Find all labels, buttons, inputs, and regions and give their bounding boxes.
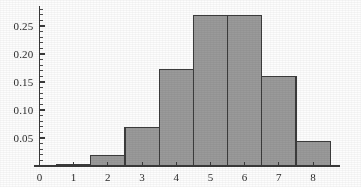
x-axis-tick-label: 5 <box>208 172 214 183</box>
plot-surface <box>0 0 361 187</box>
y-axis-tick-label: 0.10 <box>13 105 33 116</box>
x-axis-tick-label: 1 <box>71 172 77 183</box>
x-axis-tick-label: 0 <box>37 172 43 183</box>
x-axis-tick-label: 4 <box>173 172 179 183</box>
y-axis-tick-label: 0.05 <box>13 133 33 144</box>
histogram-bar <box>125 128 159 166</box>
x-axis-tick-label: 3 <box>139 172 145 183</box>
y-axis-tick-label: 0.15 <box>13 77 33 88</box>
x-axis-tick-label: 2 <box>105 172 111 183</box>
x-axis-tick-label: 8 <box>310 172 316 183</box>
x-axis-tick-label: 7 <box>276 172 282 183</box>
histogram-bar <box>228 16 262 166</box>
y-axis-tick-label: 0.25 <box>13 21 33 32</box>
y-axis-tick-label: 0.20 <box>13 49 33 60</box>
histogram-bar <box>159 70 193 166</box>
histogram-bar <box>262 76 296 166</box>
bars-group <box>57 16 331 166</box>
histogram-bar <box>193 16 227 166</box>
histogram-figure: 0.050.100.150.200.25012345678 <box>0 0 361 187</box>
x-axis-tick-label: 6 <box>242 172 248 183</box>
